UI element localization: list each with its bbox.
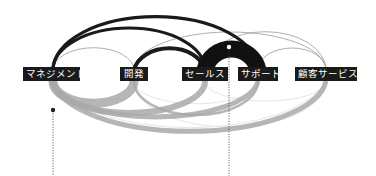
node-label-support: サポート bbox=[238, 67, 278, 81]
annotation-dot-center bbox=[227, 45, 231, 49]
node-label-customer-service: 顧客サービス bbox=[295, 67, 357, 81]
lower-grey-arcs bbox=[53, 81, 326, 131]
node-label-management: マネジメント bbox=[23, 67, 80, 81]
annotation-dot-left bbox=[51, 108, 55, 112]
arc-diagram bbox=[0, 0, 376, 176]
node-label-sales: セールス bbox=[182, 67, 228, 81]
node-label-development: 開発 bbox=[120, 67, 148, 81]
